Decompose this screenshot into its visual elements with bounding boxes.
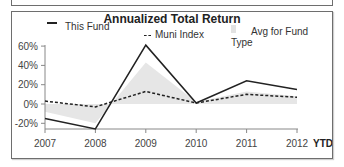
- previous-panel-border: [11, 0, 333, 6]
- x-tick-label: 2010: [185, 138, 208, 149]
- x-tick-label: 2009: [135, 138, 158, 149]
- x-tick-label: 2012: [286, 138, 309, 149]
- plot-area: 60%40%20%0%-20%200720082009201020112012Y…: [12, 12, 332, 158]
- y-tick-label: 60%: [18, 41, 38, 52]
- avg-fund-type-area: [45, 63, 297, 124]
- y-tick-label: 40%: [18, 60, 38, 71]
- y-tick-label: -20%: [15, 118, 38, 129]
- x-tick-label: 2011: [236, 138, 258, 149]
- ytd-label: YTD: [313, 138, 332, 149]
- x-tick-label: 2008: [84, 138, 107, 149]
- y-tick-label: 0%: [24, 99, 39, 110]
- y-tick-label: 20%: [18, 79, 38, 90]
- annualized-return-chart: Annualized Total Return This Fund Muni I…: [11, 11, 333, 159]
- x-tick-label: 2007: [34, 138, 57, 149]
